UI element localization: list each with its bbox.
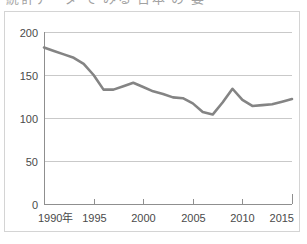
y-tick-label-200: 200	[20, 27, 38, 39]
page-title-clipped-strip: 統計データ で みる 日本 の 姿	[0, 0, 307, 11]
chart-figure-frame: 050100150200 1990年19952000200520102015	[4, 11, 300, 232]
chart-svg: 050100150200 1990年19952000200520102015	[5, 12, 301, 233]
y-axis-tick-labels: 050100150200	[20, 27, 38, 211]
line-chart: 050100150200 1990年19952000200520102015	[5, 12, 301, 233]
x-tick-label-1995: 1995	[82, 212, 106, 224]
y-tick-label-50: 50	[26, 156, 38, 168]
x-axis-tick-labels: 1990年19952000200520102015	[38, 211, 294, 224]
x-tick-label-2010: 2010	[230, 212, 254, 224]
x-tick-label-2000: 2000	[131, 212, 155, 224]
x-tick-label-2015: 2015	[270, 212, 294, 224]
y-tick-label-150: 150	[20, 70, 38, 82]
data-series-line	[44, 47, 292, 114]
y-tick-label-100: 100	[20, 113, 38, 125]
page-title: 統計データ で みる 日本 の 姿	[6, 0, 206, 7]
x-axis-tickmarks	[95, 199, 243, 204]
x-tick-label-2005: 2005	[181, 212, 205, 224]
x-tick-label-1990: 1990年	[38, 211, 73, 224]
y-tick-label-0: 0	[32, 199, 38, 211]
